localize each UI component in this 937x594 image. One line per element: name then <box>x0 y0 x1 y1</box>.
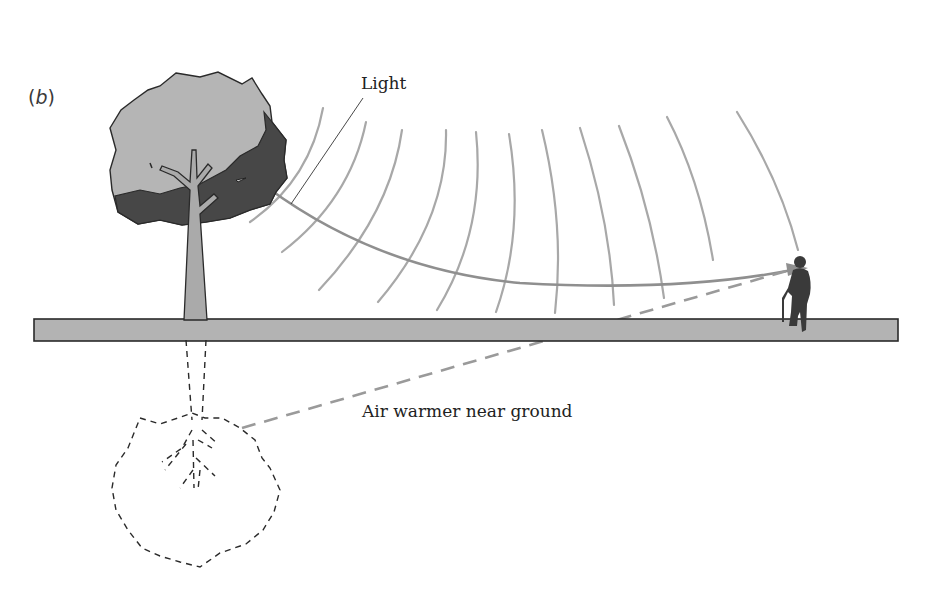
underground-roots-dashed-outline <box>112 340 280 567</box>
light-ray-arrow <box>268 188 808 286</box>
light-leader-line <box>291 98 363 204</box>
tree-shading-diagram: (b) <box>0 0 937 594</box>
air-warmer-label: Air warmer near ground <box>362 401 572 421</box>
tree <box>110 72 287 320</box>
light-label: Light <box>361 73 406 93</box>
ground <box>34 319 898 341</box>
panel-label: (b) <box>28 86 55 108</box>
diagram-canvas <box>0 0 937 594</box>
